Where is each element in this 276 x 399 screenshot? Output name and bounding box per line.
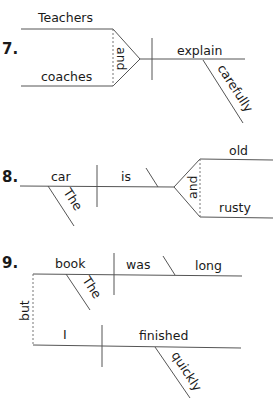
- clause-1-complement-slant: [163, 256, 175, 275]
- word-was: was: [126, 257, 150, 272]
- word-quickly: quickly: [168, 348, 205, 394]
- word-i: I: [63, 327, 67, 342]
- diagram-8-number: 8.: [2, 168, 18, 186]
- complement-slant: [146, 168, 158, 187]
- clause-1-line: [33, 274, 242, 276]
- word-but: but: [17, 300, 32, 321]
- diagram-7: 7. Teachers coaches and explain carefull…: [2, 10, 257, 123]
- word-long: long: [195, 258, 222, 273]
- word-coaches: coaches: [41, 69, 92, 84]
- word-the-9: The: [79, 273, 105, 302]
- word-is: is: [121, 169, 131, 184]
- clause-2-line: [33, 345, 241, 348]
- word-book: book: [55, 256, 86, 271]
- word-the-8: The: [60, 185, 86, 214]
- complement-top-line: [200, 159, 273, 160]
- word-teachers: Teachers: [37, 10, 93, 25]
- word-and-7: and: [114, 47, 129, 71]
- word-rusty: rusty: [219, 200, 251, 215]
- word-finished: finished: [139, 328, 188, 343]
- complement-bottom-line: [200, 217, 273, 218]
- diagram-7-number: 7.: [2, 40, 18, 58]
- sentence-diagram-sheet: 7. Teachers coaches and explain carefull…: [0, 0, 276, 399]
- word-car: car: [51, 169, 72, 184]
- word-explain: explain: [177, 43, 222, 58]
- word-and-8: and: [185, 175, 200, 199]
- word-old: old: [229, 143, 248, 158]
- diagram-8: 8. car The is and old rusty: [2, 143, 273, 226]
- diagram-9-number: 9.: [2, 254, 18, 272]
- diagram-9: 9. book The was long but I finished quic…: [2, 253, 242, 398]
- diagram-canvas: 7. Teachers coaches and explain carefull…: [0, 0, 276, 399]
